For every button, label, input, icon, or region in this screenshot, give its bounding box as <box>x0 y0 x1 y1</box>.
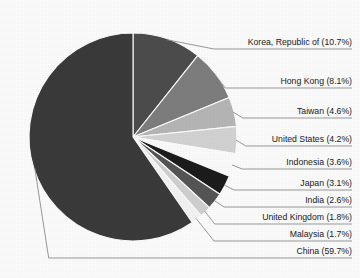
slice-label: India (2.6%) <box>305 195 352 205</box>
slice-label: Indonesia (3.6%) <box>286 157 352 167</box>
slice-label: United States (4.2%) <box>272 134 352 144</box>
slice-label: Taiwan (4.6%) <box>297 106 352 116</box>
slice-label: Hong Kong (8.1%) <box>281 76 353 86</box>
pie-chart: Korea, Republic of (10.7%)Hong Kong (8.1… <box>0 0 360 278</box>
slice-label: Malaysia (1.7%) <box>290 229 352 239</box>
pie-chart-canvas: Korea, Republic of (10.7%)Hong Kong (8.1… <box>0 0 360 278</box>
slice-label: Japan (3.1%) <box>300 178 352 188</box>
slice-label: China (59.7%) <box>296 246 352 256</box>
pie-slices <box>29 33 237 241</box>
slice-label: Korea, Republic of (10.7%) <box>248 37 352 47</box>
slice-label: United Kingdom (1.8%) <box>262 212 352 222</box>
slice-labels: Korea, Republic of (10.7%)Hong Kong (8.1… <box>248 37 352 256</box>
